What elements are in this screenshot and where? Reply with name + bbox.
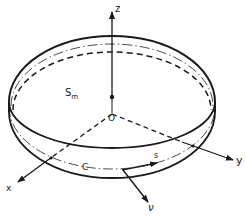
arc-length-label: s [154, 152, 158, 160]
y-axis-contour-point [191, 144, 194, 147]
x-axis-contour-point [49, 156, 52, 159]
y-axis [182, 142, 233, 160]
y-axis-label: y [236, 155, 243, 166]
x-axis-hidden [52, 114, 112, 157]
origin-label: O [108, 114, 115, 123]
y-axis-hidden [112, 114, 182, 142]
contour-label: C [82, 163, 88, 172]
z-axis-label: z [115, 4, 120, 14]
plate-diagram [0, 0, 246, 218]
midsurface-label-sub: m [71, 93, 78, 101]
normal-label: ν [148, 203, 154, 213]
tangent-s-arrow [122, 163, 157, 170]
midsurface-label: Sm [65, 88, 78, 101]
x-axis [18, 157, 52, 182]
x-axis-label: x [6, 184, 11, 193]
